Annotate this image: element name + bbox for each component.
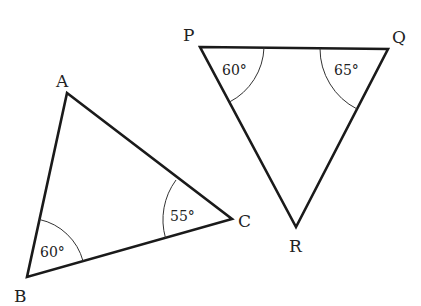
vertex-label-b: B bbox=[14, 286, 27, 306]
vertex-label-p: P bbox=[183, 25, 194, 45]
angle-label-q: 65° bbox=[334, 62, 359, 78]
angle-arc-q bbox=[320, 49, 357, 110]
diagram-svg: A B C 60° 55° P Q R 60° 65° bbox=[0, 0, 421, 306]
vertex-label-q: Q bbox=[392, 27, 406, 47]
vertex-label-a: A bbox=[55, 71, 69, 91]
diagram-canvas: A B C 60° 55° P Q R 60° 65° bbox=[0, 0, 421, 306]
triangle-pqr: P Q R 60° 65° bbox=[183, 25, 406, 256]
angle-label-p: 60° bbox=[222, 62, 247, 78]
angle-label-c: 55° bbox=[170, 208, 195, 224]
triangle-abc: A B C 60° 55° bbox=[14, 71, 251, 306]
vertex-label-r: R bbox=[289, 236, 303, 256]
angle-label-b: 60° bbox=[40, 244, 65, 260]
vertex-label-c: C bbox=[238, 211, 251, 231]
